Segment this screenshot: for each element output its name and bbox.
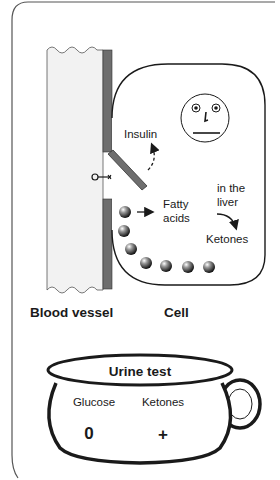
ketones-value: +	[158, 425, 168, 444]
insulin-label: Insulin	[124, 128, 157, 140]
glucose-label: Glucose	[73, 396, 115, 408]
fat-droplet-icon	[118, 225, 130, 237]
fat-droplet-icon	[160, 260, 172, 272]
fatty-acids-label: Fatty	[163, 198, 189, 210]
fat-droplet-icon	[140, 257, 152, 269]
fatty-acids-label-2: acids	[163, 212, 190, 224]
fat-droplet-icon	[203, 261, 215, 273]
vessel-wall-upper	[103, 50, 112, 152]
cell-caption: Cell	[164, 305, 189, 320]
ketone-diagram: Insulin Fatty acids in the liver Ketones…	[0, 0, 280, 480]
ketones-label: Ketones	[206, 233, 248, 245]
vessel-wall-lower	[103, 199, 112, 289]
face-icon	[181, 94, 229, 142]
glucose-value: 0	[84, 424, 93, 443]
urine-test-title: Urine test	[109, 364, 172, 379]
in-the-liver-label: in the	[217, 182, 245, 194]
ketones-test-label: Ketones	[142, 396, 184, 408]
urine-test-pot: Urine test Glucose Ketones 0 +	[48, 355, 260, 463]
fat-droplet-icon	[125, 243, 137, 255]
fat-droplet-icon	[119, 206, 131, 218]
fat-droplet-icon	[182, 261, 194, 273]
in-the-liver-label-2: liver	[217, 196, 238, 208]
pot-body	[49, 383, 231, 463]
blood-vessel-caption: Blood vessel	[30, 305, 113, 320]
blood-vessel	[47, 47, 112, 293]
